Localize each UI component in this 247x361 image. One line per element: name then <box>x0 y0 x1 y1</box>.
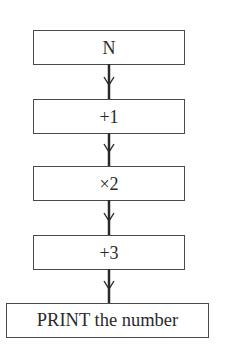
step-label: +1 <box>99 108 118 126</box>
step-label: +3 <box>99 244 118 262</box>
step-label: ×2 <box>99 175 118 193</box>
down-arrow-icon <box>102 200 116 236</box>
down-arrow-icon <box>102 269 116 304</box>
flowchart-diagram: N +1 ×2 +3 PRINT the number <box>0 0 247 361</box>
flowchart-step-times-two: ×2 <box>33 166 185 201</box>
flowchart-step-add-three: +3 <box>33 235 185 270</box>
flowchart-step-print: PRINT the number <box>6 303 209 338</box>
flowchart-step-add-one: +1 <box>33 99 185 134</box>
down-arrow-icon <box>102 133 116 167</box>
flowchart-step-start: N <box>33 30 185 65</box>
step-label: PRINT the number <box>37 311 178 330</box>
down-arrow-icon <box>102 64 116 100</box>
step-label: N <box>103 39 116 57</box>
